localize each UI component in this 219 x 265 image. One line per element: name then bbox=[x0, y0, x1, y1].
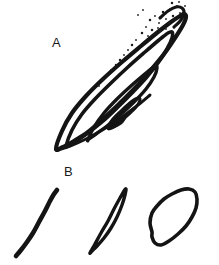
panel-a-stipple-dot bbox=[106, 74, 108, 76]
panel-a-stipple-dot bbox=[179, 12, 181, 14]
panel-a-stipple-dot bbox=[115, 64, 118, 67]
panel-a-stipple-dot bbox=[157, 27, 159, 29]
panel-a-stipple-dot bbox=[102, 79, 105, 82]
panel-a-stipple-dot bbox=[168, 22, 171, 25]
panel-a-stipple-dot bbox=[141, 32, 144, 35]
panel-a-stipple-dot bbox=[165, 18, 167, 20]
panel-a-stipple-dot bbox=[154, 15, 156, 17]
panel-a-stipple-dot bbox=[174, 19, 176, 21]
panel-a-stipple-dot bbox=[176, 5, 178, 7]
panel-a-stipple-dot bbox=[145, 26, 147, 28]
panel-a-stipple-dot bbox=[159, 30, 162, 33]
panel-a-stipple-dot bbox=[149, 19, 152, 22]
panel-a-stipple-dot bbox=[119, 59, 122, 62]
panel-a-stipple-dot bbox=[142, 9, 144, 11]
panel-a-stipple-dot bbox=[98, 85, 100, 87]
panel-a-stipple-dot bbox=[137, 14, 139, 16]
panel-a-stipple-dot bbox=[165, 28, 167, 30]
panel-a-stipple-dot bbox=[153, 33, 155, 35]
panel-a-stipple-dot bbox=[127, 49, 129, 51]
panel-a-stipple-dot bbox=[178, 1, 180, 3]
panel-a-stipple-dot bbox=[163, 25, 165, 27]
panel-a-stipple-dot bbox=[123, 54, 125, 56]
panel-a-stipple-dot bbox=[110, 69, 112, 71]
panel-a-stipple-dot bbox=[131, 44, 134, 47]
figure-illustration bbox=[0, 0, 219, 265]
panel-a-stipple-dot bbox=[169, 8, 171, 10]
panel-a-stipple-dot bbox=[162, 11, 165, 14]
panel-a-stipple-dot bbox=[147, 35, 149, 37]
panel-a-stipple-dot bbox=[135, 39, 137, 41]
panel-a-stipple-dot bbox=[151, 29, 154, 32]
panel-a-stipple-dot bbox=[158, 22, 160, 24]
panel-a-stipple-dot bbox=[171, 2, 174, 5]
panel-label-b: B bbox=[64, 165, 73, 178]
panel-a-stipple-dot bbox=[184, 5, 186, 7]
figure-container: A B bbox=[0, 0, 219, 265]
panel-a-stipple-dot bbox=[172, 15, 175, 18]
panel-label-a: A bbox=[52, 36, 61, 49]
